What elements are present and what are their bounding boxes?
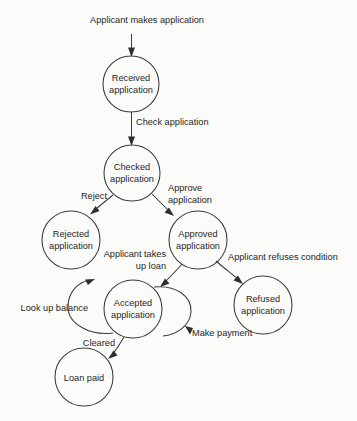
state-label-refused-line2: application <box>241 306 285 316</box>
state-circle-approved[interactable] <box>169 211 227 269</box>
state-label-received-line1: Received <box>112 73 150 83</box>
transition-accepted-self-lookup: Look up balance <box>21 279 113 333</box>
arrowhead-approved-to-accepted <box>160 279 170 288</box>
edge-label-reject: Reject <box>81 191 107 201</box>
state-node-checked[interactable]: Checked application <box>104 145 160 201</box>
state-label-refused-line1: Refused <box>246 294 280 304</box>
state-diagram: Applicant makes application Received app… <box>0 0 357 421</box>
state-node-received[interactable]: Received application <box>103 56 159 112</box>
arrowhead-lookup-balance-loop <box>85 279 95 285</box>
state-circle-accepted[interactable] <box>104 280 162 338</box>
transition-start-to-received: Applicant makes application <box>90 15 204 57</box>
state-label-accepted-line1: Accepted <box>114 298 152 308</box>
edge-label-look-up-balance: Look up balance <box>21 303 88 313</box>
arrowhead-accepted-to-loanpaid <box>108 351 118 360</box>
edge-label-approve-line2: application <box>168 195 212 205</box>
edge-label-takes-loan-line2: up loan <box>136 261 166 271</box>
edge-label-make-payment: Make payment <box>192 328 253 338</box>
arrowhead-checked-to-approved <box>165 208 175 217</box>
state-node-accepted[interactable]: Accepted application <box>104 280 162 338</box>
transition-received-to-checked: Check application <box>128 112 209 146</box>
state-label-rejected-line1: Rejected <box>53 229 89 239</box>
edge-label-refuses-condition: Applicant refuses condition <box>228 252 338 262</box>
state-label-rejected-line2: application <box>49 241 93 251</box>
state-label-received-line2: application <box>109 85 153 95</box>
state-label-checked-line1: Checked <box>114 162 150 172</box>
edge-line-make-payment-loop <box>154 287 191 336</box>
edge-line-approved-to-refused <box>216 261 239 280</box>
state-label-loanpaid-line1: Loan paid <box>64 373 104 383</box>
edge-label-approve-line1: Approve <box>168 183 202 193</box>
transition-checked-to-rejected: Reject <box>81 191 113 215</box>
state-label-approved-line1: Approved <box>178 229 217 239</box>
state-circle-refused[interactable] <box>234 276 292 334</box>
state-circle-checked[interactable] <box>104 145 160 201</box>
edge-line-approved-to-accepted <box>164 264 182 283</box>
state-label-checked-line2: application <box>110 174 154 184</box>
state-node-rejected[interactable]: Rejected application <box>42 211 100 269</box>
state-label-approved-line2: application <box>176 241 220 251</box>
edge-label-applicant-makes-application: Applicant makes application <box>90 15 204 25</box>
state-node-refused[interactable]: Refused application <box>234 276 292 334</box>
state-node-loanpaid[interactable]: Loan paid <box>55 348 113 406</box>
state-node-approved[interactable]: Approved application <box>169 211 227 269</box>
edge-label-check-application: Check application <box>136 117 209 127</box>
state-label-accepted-line2: application <box>111 310 155 320</box>
state-circle-rejected[interactable] <box>42 211 100 269</box>
edge-label-takes-loan-line1: Applicant takes <box>104 249 167 259</box>
state-diagram-canvas: Applicant makes application Received app… <box>0 0 357 421</box>
transition-accepted-self-payment: Make payment <box>154 287 253 338</box>
state-circle-received[interactable] <box>103 56 159 112</box>
edge-label-cleared: Cleared <box>83 338 115 348</box>
